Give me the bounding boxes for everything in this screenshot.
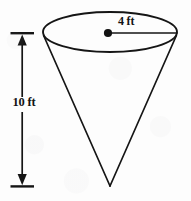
height-arrowhead-up xyxy=(18,34,27,45)
cone-left-side xyxy=(44,36,110,187)
cone-figure: 10 ft 4 ft xyxy=(0,0,191,201)
radius-label: 4 ft xyxy=(118,15,134,27)
height-arrowhead-down xyxy=(18,174,27,185)
cone-right-side xyxy=(110,36,176,187)
height-label: 10 ft xyxy=(3,96,45,109)
center-dot xyxy=(104,29,112,37)
height-dimension-arrow xyxy=(11,33,35,186)
